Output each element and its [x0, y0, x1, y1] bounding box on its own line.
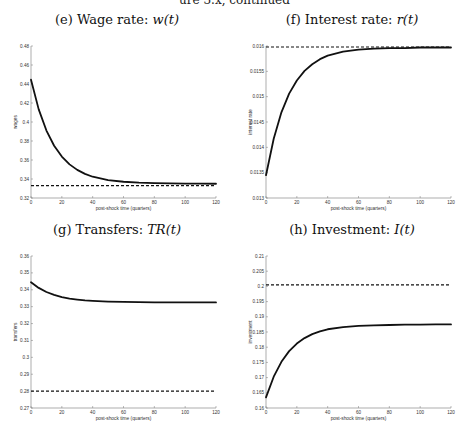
y-tick-label: 0.32: [20, 196, 29, 201]
x-tick-label: 0: [30, 200, 33, 205]
x-tick-label: 60: [356, 200, 362, 205]
x-tick-label: 40: [90, 410, 96, 415]
y-tick-label: 0.27: [20, 406, 29, 411]
y-tick-label: 0.2: [258, 284, 265, 289]
y-tick-label: 0.34: [20, 287, 29, 292]
chart-panel-investment: (h) Investment: I(t) 0.160.1650.170.1750…: [235, 222, 469, 436]
wage-rate-chart: 0.320.340.360.380.40.420.440.460.4802040…: [0, 12, 234, 228]
y-tick-label: 0.35: [20, 270, 29, 275]
y-tick-label: 0.31: [20, 338, 29, 343]
x-tick-label: 80: [387, 410, 393, 415]
y-tick-label: 0.34: [20, 177, 29, 182]
y-tick-label: 0.185: [253, 330, 265, 335]
x-tick-label: 80: [152, 410, 158, 415]
x-tick-label: 80: [387, 200, 393, 205]
x-tick-label: 20: [59, 200, 65, 205]
y-tick-label: 0.205: [253, 269, 265, 274]
x-tick-label: 120: [447, 410, 455, 415]
y-axis-label: interest rate: [248, 109, 253, 135]
y-tick-label: 0.36: [20, 254, 29, 259]
y-tick-label: 0.28: [20, 389, 29, 394]
x-tick-label: 0: [30, 410, 33, 415]
y-tick-label: 0.0135: [250, 170, 264, 175]
y-tick-label: 0.016: [253, 44, 265, 49]
y-tick-label: 0.46: [20, 63, 29, 68]
x-tick-label: 100: [416, 410, 424, 415]
y-tick-label: 0.19: [255, 314, 264, 319]
transition-path-line: [31, 282, 216, 302]
x-tick-label: 100: [416, 200, 424, 205]
y-tick-label: 0.16: [255, 406, 264, 411]
x-tick-label: 120: [212, 410, 220, 415]
x-tick-label: 40: [325, 200, 331, 205]
chart-panel-wage-rate: (e) Wage rate: w(t) 0.320.340.360.380.40…: [0, 12, 234, 228]
y-axis-label: transfers: [13, 322, 18, 341]
x-tick-label: 40: [325, 410, 331, 415]
y-tick-label: 0.195: [253, 299, 265, 304]
x-tick-label: 120: [447, 200, 455, 205]
y-tick-label: 0.33: [20, 304, 29, 309]
interest-rate-chart: 0.0130.01350.0140.01450.0150.01550.01602…: [235, 12, 469, 228]
x-axis-label: post-shock time (quarters): [331, 206, 387, 211]
y-axis-label: wages: [13, 114, 18, 128]
x-tick-label: 0: [265, 200, 268, 205]
y-tick-label: 0.44: [20, 82, 29, 87]
page-header-fragment: ure 3.x, continued: [0, 0, 469, 7]
x-tick-label: 60: [356, 410, 362, 415]
x-axis-label: post-shock time (quarters): [96, 206, 152, 211]
y-tick-label: 0.29: [20, 372, 29, 377]
x-tick-label: 60: [121, 200, 127, 205]
x-tick-label: 20: [294, 410, 300, 415]
y-tick-label: 0.21: [255, 254, 264, 259]
y-tick-label: 0.4: [23, 120, 30, 125]
x-tick-label: 100: [181, 200, 189, 205]
x-tick-label: 60: [121, 410, 127, 415]
chart-panel-interest-rate: (f) Interest rate: r(t) 0.0130.01350.014…: [235, 12, 469, 228]
x-axis-label: post-shock time (quarters): [96, 416, 152, 421]
x-tick-label: 0: [265, 410, 268, 415]
y-axis-label: investment: [248, 320, 253, 344]
x-tick-label: 80: [152, 200, 158, 205]
x-tick-label: 20: [294, 200, 300, 205]
y-tick-label: 0.165: [253, 390, 265, 395]
x-axis-label: post-shock time (quarters): [331, 416, 387, 421]
x-tick-label: 100: [181, 410, 189, 415]
y-tick-label: 0.38: [20, 139, 29, 144]
y-tick-label: 0.17: [255, 375, 264, 380]
y-tick-label: 0.42: [20, 101, 29, 106]
x-tick-label: 120: [212, 200, 220, 205]
y-tick-label: 0.18: [255, 345, 264, 350]
y-tick-label: 0.36: [20, 158, 29, 163]
investment-chart: 0.160.1650.170.1750.180.1850.190.1950.20…: [235, 222, 469, 436]
chart-panel-transfers: (g) Transfers: TR(t) 0.270.280.290.30.31…: [0, 222, 234, 436]
x-tick-label: 40: [90, 200, 96, 205]
transition-path-line: [266, 48, 451, 176]
y-tick-label: 0.0155: [250, 69, 264, 74]
y-tick-label: 0.48: [20, 44, 29, 49]
y-tick-label: 0.015: [253, 94, 265, 99]
transfers-chart: 0.270.280.290.30.310.320.330.340.350.360…: [0, 222, 234, 436]
transition-path-line: [266, 324, 451, 397]
transition-path-line: [31, 80, 216, 184]
x-tick-label: 20: [59, 410, 65, 415]
y-tick-label: 0.175: [253, 360, 265, 365]
y-tick-label: 0.3: [23, 355, 30, 360]
y-tick-label: 0.013: [253, 196, 265, 201]
y-tick-label: 0.014: [253, 145, 265, 150]
y-tick-label: 0.32: [20, 321, 29, 326]
